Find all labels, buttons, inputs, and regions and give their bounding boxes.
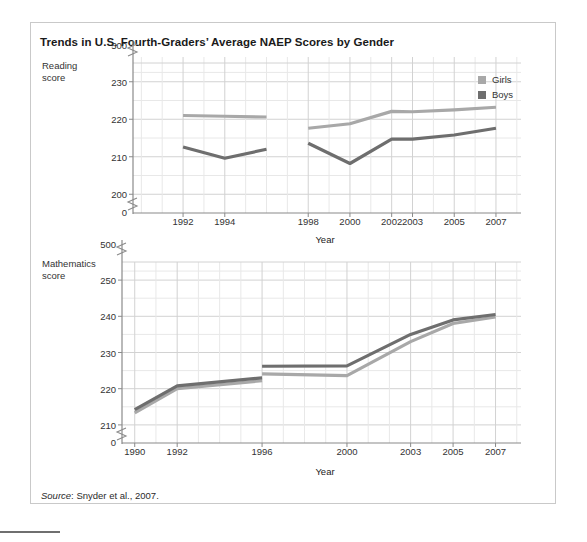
mathematics-plot-area — [0, 0, 587, 542]
source-text: : Snyder et al., 2007. — [71, 490, 159, 501]
mathematics-x-axis-label: Year — [315, 466, 334, 477]
footer-rule — [0, 531, 60, 533]
y-axis-break-bottom — [117, 428, 126, 440]
y-axis-break-top — [117, 243, 126, 255]
source-note: Source: Snyder et al., 2007. — [41, 490, 159, 501]
source-label: Source — [41, 490, 71, 501]
